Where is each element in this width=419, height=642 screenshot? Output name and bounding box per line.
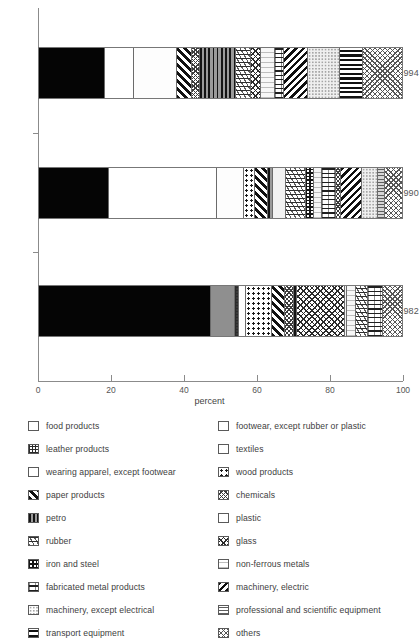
legend-item-textiles[interactable]: textiles: [218, 437, 418, 460]
legend-label: petro: [46, 513, 66, 523]
legend-swatch-chem: [218, 490, 229, 500]
legend-item-iron[interactable]: iron and steel: [28, 552, 228, 575]
legend-swatch-transport: [28, 628, 39, 638]
legend-label: machinery, electric: [236, 582, 309, 592]
bar-segment-others: [383, 286, 402, 336]
legend-swatch-nonferrous: [218, 559, 229, 569]
bar-segment-chem: [192, 48, 200, 98]
legend-label: textiles: [236, 444, 264, 454]
legend-swatch-glass: [218, 536, 229, 546]
bar-segment-textiles: [105, 48, 135, 98]
legend-swatch-rubber: [28, 536, 39, 546]
legend-label: leather products: [46, 444, 109, 454]
legend-label: plastic: [236, 513, 261, 523]
legend-swatch-paper: [28, 490, 39, 500]
bar-segment-food: [39, 48, 105, 98]
legend-item-footwear[interactable]: footwear, except rubber or plastic: [218, 414, 418, 437]
bar-segment-fabmetal: [368, 286, 383, 336]
legend-item-leather[interactable]: leather products: [28, 437, 228, 460]
x-tick: [111, 375, 112, 381]
legend-item-apparel[interactable]: wearing apparel, except footwear: [28, 460, 228, 483]
legend-label: wood products: [236, 467, 293, 477]
bar-segment-rubber: [236, 48, 251, 98]
legend-item-plastic[interactable]: plastic: [218, 506, 418, 529]
bar-segment-food: [39, 168, 109, 218]
legend-swatch-food: [28, 421, 39, 431]
legend-item-machelec[interactable]: machinery, electric: [218, 575, 418, 598]
x-tick: [184, 375, 185, 381]
bar-segment-iron: [306, 168, 314, 218]
bar-segment-fabmetal: [322, 168, 336, 218]
legend-item-transport[interactable]: transport equipment: [28, 621, 228, 642]
bar-segment-apparel: [217, 168, 244, 218]
legend-swatch-prof: [218, 605, 229, 615]
x-tick-label: 60: [252, 385, 261, 395]
legend-swatch-wood: [218, 467, 229, 477]
bar-segment-glass: [297, 286, 346, 336]
x-axis-line: [38, 381, 403, 382]
x-tick: [403, 375, 404, 381]
legend-label: rubber: [46, 536, 71, 546]
x-tick-label: 0: [36, 385, 41, 395]
legend-swatch-footwear: [218, 421, 229, 431]
stacked-bar-chart: 199419901982 020406080100 percent: [0, 0, 419, 410]
legend-column-right: footwear, except rubber or plastictextil…: [218, 414, 418, 642]
bar-segment-nonferrous: [261, 48, 275, 98]
x-tick: [38, 375, 39, 381]
x-axis-title: percent: [0, 396, 419, 406]
y-tick: [33, 133, 38, 134]
bar-segment-paper: [272, 286, 285, 336]
legend-item-paper[interactable]: paper products: [28, 483, 228, 506]
legend-label: professional and scientific equipment: [236, 605, 381, 615]
bar-segment-footwear: [211, 286, 235, 336]
legend-label: footwear, except rubber or plastic: [236, 421, 366, 431]
x-tick-label: 40: [179, 385, 188, 395]
legend-item-prof[interactable]: professional and scientific equipment: [218, 598, 418, 621]
legend-swatch-textiles: [218, 444, 229, 454]
legend-item-fabmetal[interactable]: fabricated metal products: [28, 575, 228, 598]
legend-label: food products: [46, 421, 99, 431]
legend-item-nonferrous[interactable]: non-ferrous metals: [218, 552, 418, 575]
bar-segment-apparel: [134, 48, 177, 98]
bar-segment-food: [39, 286, 211, 336]
legend-item-wood[interactable]: wood products: [218, 460, 418, 483]
x-tick-label: 100: [396, 385, 410, 395]
legend-item-chem[interactable]: chemicals: [218, 483, 418, 506]
bar-segment-prof: [378, 168, 385, 218]
bar-segment-others: [385, 168, 402, 218]
bar-1990: [38, 167, 403, 219]
bar-segment-petro: [200, 48, 236, 98]
bar-segment-textiles: [239, 286, 246, 336]
legend-label: fabricated metal products: [46, 582, 145, 592]
x-tick-label: 20: [106, 385, 115, 395]
legend-swatch-iron: [28, 559, 39, 569]
legend-item-glass[interactable]: glass: [218, 529, 418, 552]
bar-segment-wood: [244, 168, 255, 218]
bar-segment-machexcl: [308, 48, 340, 98]
legend-item-food[interactable]: food products: [28, 414, 228, 437]
legend-swatch-apparel: [28, 467, 39, 477]
legend-swatch-petro: [28, 513, 39, 523]
bar-segment-nonferrous: [314, 168, 322, 218]
y-tick: [33, 252, 38, 253]
bar-segment-machexcl: [362, 168, 378, 218]
bar-segment-fabmetal: [275, 48, 285, 98]
legend-label: chemicals: [236, 490, 275, 500]
bar-segment-glass: [251, 48, 261, 98]
legend-swatch-machelec: [218, 582, 229, 592]
x-tick-label: 80: [325, 385, 334, 395]
legend-item-petro[interactable]: petro: [28, 506, 228, 529]
legend-column-left: food productsleather productswearing app…: [28, 414, 228, 642]
legend-item-machexcl[interactable]: machinery, except electrical: [28, 598, 228, 621]
legend-label: paper products: [46, 490, 105, 500]
bar-segment-chem: [285, 286, 294, 336]
legend-item-others[interactable]: others: [218, 621, 418, 642]
legend-swatch-plastic: [218, 513, 229, 523]
legend-label: glass: [236, 536, 257, 546]
legend-swatch-others: [218, 628, 229, 638]
bar-segment-nonferrous: [347, 286, 356, 336]
legend-swatch-leather: [28, 444, 39, 454]
legend-item-rubber[interactable]: rubber: [28, 529, 228, 552]
legend-swatch-fabmetal: [28, 582, 39, 592]
chart-legend: food productsleather productswearing app…: [0, 414, 419, 634]
